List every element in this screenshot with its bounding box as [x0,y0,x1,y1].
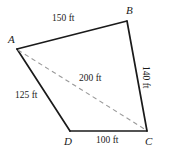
vertex-label-a: A [8,34,15,45]
side-length-label-da: 125 ft [15,91,37,101]
vertex-label-d: D [64,136,72,147]
side-length-label-ab: 150 ft [52,14,74,24]
vertex-label-b: B [126,5,133,16]
geometry-figure: A B C D 150 ft 140 ft 100 ft 125 ft 200 … [0,0,173,152]
diagonal-a-to-c [18,50,146,130]
diagonal-length-label-ac: 200 ft [79,74,101,84]
edge-a-to-b [17,21,127,49]
vertex-label-c: C [145,136,152,147]
side-length-label-bc: 140 ft [141,66,151,88]
side-length-label-cd: 100 ft [96,136,118,146]
